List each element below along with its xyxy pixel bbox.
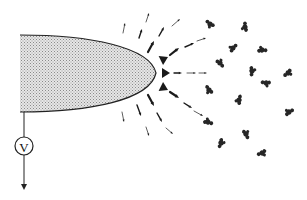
ion-arrow-icon	[146, 127, 149, 136]
molecule-icon	[240, 128, 252, 140]
voltmeter-icon: V	[15, 137, 33, 155]
molecule-icon	[260, 77, 272, 89]
emitter-tip	[20, 35, 156, 112]
ion-arrow-icon	[187, 72, 196, 74]
ion-arrow-icon	[166, 128, 173, 134]
molecule-icon	[239, 21, 252, 34]
ion-arrow-icon	[174, 72, 182, 75]
voltmeter-label: V	[19, 140, 29, 155]
ion-arrow-icon	[185, 43, 194, 47]
ion-arrow-icon	[137, 105, 141, 116]
ion-arrow-icon	[159, 82, 168, 91]
ion-arrow-icon	[159, 56, 168, 65]
molecule-icon	[283, 68, 294, 79]
ion-arrow-icon	[184, 103, 192, 108]
molecule-icon	[256, 44, 269, 57]
ion-arrow-icon	[148, 95, 154, 106]
tip-diagram: V	[0, 0, 307, 200]
molecule-icon	[233, 94, 245, 106]
molecule-icon	[228, 43, 237, 53]
ion-arrow-icon	[148, 41, 154, 52]
molecule-icon	[256, 147, 268, 159]
ion-arrow-icon	[170, 48, 179, 55]
ion-arrow-icon	[139, 29, 142, 38]
ion-arrow-icon	[157, 113, 162, 122]
ion-arrow-icon	[159, 27, 164, 36]
molecule-icon	[206, 20, 215, 29]
tip-body	[20, 35, 156, 112]
gas-molecules	[202, 20, 295, 159]
molecule-icon	[215, 137, 226, 149]
ion-arrow-icon	[199, 72, 207, 74]
molecule-icon	[246, 65, 258, 78]
ion-arrow-icon	[122, 112, 124, 122]
molecule-icon	[215, 58, 225, 68]
ion-arrow-icon	[170, 92, 179, 98]
molecule-icon	[203, 85, 214, 96]
ion-arrow-icon	[162, 68, 170, 78]
ion-arrow-icon	[146, 13, 149, 22]
molecule-icon	[202, 116, 214, 128]
molecule-icon	[283, 106, 294, 118]
ion-arrow-icon	[194, 111, 203, 116]
ion-arrow-icon	[123, 23, 125, 33]
ion-arrow-icon	[197, 38, 206, 41]
ion-arrow-icon	[172, 19, 180, 26]
ground-arrow-icon	[21, 184, 27, 190]
